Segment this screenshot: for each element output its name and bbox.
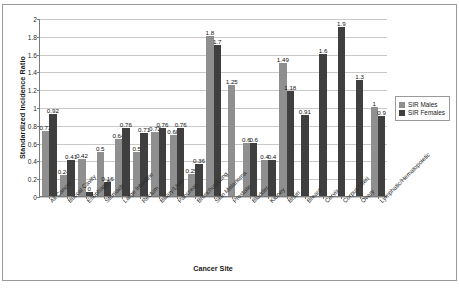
x-label-cell: Lymphatic/Hematopoietic [369, 198, 387, 256]
bar-group: 0.240.41 [58, 19, 76, 196]
x-label-cell: Esophagus [76, 198, 94, 256]
x-label-cell: Buccal Cavity [57, 198, 75, 256]
bar-group: 0.420 [77, 19, 95, 196]
bar: 0.91 [301, 115, 308, 196]
bar-value-label: 0.5 [96, 145, 105, 152]
y-tick-label: 0.4 [28, 158, 37, 165]
legend-swatch-males-icon [399, 102, 405, 108]
x-label-cell: Cervix [314, 198, 332, 256]
legend-swatch-females-icon [399, 110, 405, 116]
bar-group: 0.720.76 [150, 19, 168, 196]
x-label-cell: Stomach [94, 198, 112, 256]
x-label-cell: Prostate [222, 198, 240, 256]
bar-value-label: 0.42 [76, 152, 88, 159]
bar-group: 0.91 [296, 19, 314, 196]
legend-item-sir-males: SIR Males [399, 101, 445, 108]
bar: 0.92 [49, 114, 56, 196]
x-label-cell: Brain [277, 198, 295, 256]
y-axis-title: Standardized Incidence Ratio [18, 33, 27, 183]
bar: 1.8 [206, 36, 213, 196]
y-tick-label: 1.2 [28, 87, 37, 94]
bar-value-label: 0.76 [156, 121, 168, 128]
bar-value-label: 0.6 [249, 136, 258, 143]
bar-group: 1.491.18 [277, 19, 295, 196]
bar-value-label: 0.36 [193, 157, 205, 164]
x-label-cell: Kidney [259, 198, 277, 256]
x-label-cell: Breast [295, 198, 313, 256]
bar-group: 1.3 [351, 19, 369, 196]
y-tick-label: 1.4 [28, 69, 37, 76]
bar: 0.76 [159, 128, 166, 196]
bar: 1.18 [287, 91, 294, 196]
bar-value-label: 0.76 [120, 121, 132, 128]
x-label-cell: Corpus Uteri [332, 198, 350, 256]
bar-group: 0.40.4 [259, 19, 277, 196]
x-label-cell: Skin Melanoma [204, 198, 222, 256]
y-tick-label: 1.8 [28, 33, 37, 40]
bar-value-label: 1.8 [206, 29, 215, 36]
chart-screenshot: Standardized Incidence Ratio 00.20.40.60… [0, 0, 459, 289]
bar-group: 10.9 [369, 19, 387, 196]
bar: 1.6 [319, 54, 326, 196]
bar-value-label: 1.18 [284, 84, 296, 91]
plot-area: 00.20.40.60.811.21.41.61.82 0.730.920.24… [39, 19, 387, 197]
x-label-cell: Bronchus/Lung [186, 198, 204, 256]
y-tick-label: 0.8 [28, 122, 37, 129]
y-tick-label: 0.2 [28, 176, 37, 183]
bar-group: 0.640.76 [113, 19, 131, 196]
y-tick-label: 1.6 [28, 51, 37, 58]
x-label-cell: Pancreas [167, 198, 185, 256]
x-label-cell: Biliary/Liver [149, 198, 167, 256]
legend-label-females: SIR Females [408, 109, 445, 116]
x-label-cell: Bladder [240, 198, 258, 256]
x-label-cell: Large Intestine [112, 198, 130, 256]
bar-value-label: 1.6 [319, 47, 328, 54]
bar-group: 1.9 [332, 19, 350, 196]
x-label-cell: Rectum [131, 198, 149, 256]
bar: 1 [371, 107, 378, 196]
bar-value-label: 1.9 [337, 20, 346, 27]
bar-value-label: 1.3 [355, 73, 364, 80]
bar-value-label: 0.4 [268, 153, 277, 160]
bar-value-label: 1 [372, 100, 375, 107]
x-label-cell: Ovary [350, 198, 368, 256]
bar-value-label: 0.76 [175, 121, 187, 128]
bar-value-label: 1.7 [213, 38, 222, 45]
bar-groups: 0.730.920.240.410.4200.50.160.640.760.50… [40, 19, 387, 196]
bar-group: 1.6 [314, 19, 332, 196]
y-tick-label: 0.6 [28, 140, 37, 147]
bar-group: 0.50.71 [131, 19, 149, 196]
bar-group: 1.25 [223, 19, 241, 196]
legend-item-sir-females: SIR Females [399, 109, 445, 116]
bar: 1.9 [338, 27, 345, 196]
bar-value-label: 0.9 [377, 109, 386, 116]
chart-frame: Standardized Incidence Ratio 00.20.40.60… [2, 4, 457, 281]
bar-value-label: 1.49 [277, 56, 289, 63]
legend-label-males: SIR Males [408, 101, 437, 108]
bar-group: 0.680.76 [168, 19, 186, 196]
bar-value-label: 1.25 [226, 78, 238, 85]
bar-group: 0.250.36 [186, 19, 204, 196]
bar-value-label: 0.92 [47, 107, 59, 114]
bar-group: 0.50.16 [95, 19, 113, 196]
x-axis-title: Cancer Site [39, 264, 387, 273]
x-label-cell: All Cancer [39, 198, 57, 256]
chart-legend: SIR Males SIR Females [395, 96, 450, 121]
bar-group: 0.730.92 [40, 19, 58, 196]
x-axis-category-labels: All CancerBuccal CavityEsophagusStomachL… [39, 198, 387, 256]
bar-group: 1.81.7 [204, 19, 222, 196]
bar: 0.73 [42, 131, 49, 196]
bar-value-label: 0.91 [299, 108, 311, 115]
bar: 0.9 [378, 116, 385, 196]
